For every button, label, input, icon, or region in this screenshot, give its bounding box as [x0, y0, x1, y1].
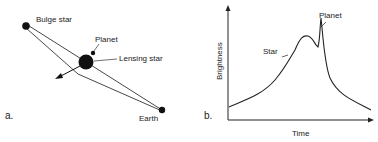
lensing-star-icon	[79, 55, 94, 70]
lower-light-path	[26, 28, 162, 111]
star-leader-line	[282, 55, 288, 57]
x-axis-arrow-icon	[368, 118, 374, 123]
star-annotation: Star	[263, 47, 278, 56]
panel-a-letter: a.	[5, 110, 13, 121]
y-axis-label: Brightness	[215, 42, 224, 80]
earth-icon	[159, 107, 165, 113]
planet-icon	[91, 51, 95, 55]
lensing-star-label: Lensing star	[119, 54, 163, 63]
upper-light-path	[26, 24, 162, 110]
panel-a: Bulge star Planet Lensing star Earth a.	[5, 15, 165, 123]
panel-b: Star Planet Time Brightness b.	[204, 5, 374, 138]
earth-label: Earth	[139, 114, 158, 123]
light-curve	[229, 18, 371, 110]
panel-b-letter: b.	[204, 110, 212, 121]
lensing-star-leader-line	[94, 59, 117, 61]
planet-leader-line	[94, 44, 99, 51]
motion-arrow-line	[59, 66, 80, 77]
bulge-star-icon	[22, 22, 30, 30]
motion-arrow-icon	[55, 73, 63, 79]
x-axis-label: Time	[292, 129, 310, 138]
y-axis-arrow-icon	[226, 5, 231, 11]
planet-label: Planet	[95, 35, 118, 44]
microlensing-figure: Bulge star Planet Lensing star Earth a. …	[0, 0, 378, 142]
planet-annotation: Planet	[319, 11, 342, 20]
bulge-star-label: Bulge star	[36, 15, 72, 24]
